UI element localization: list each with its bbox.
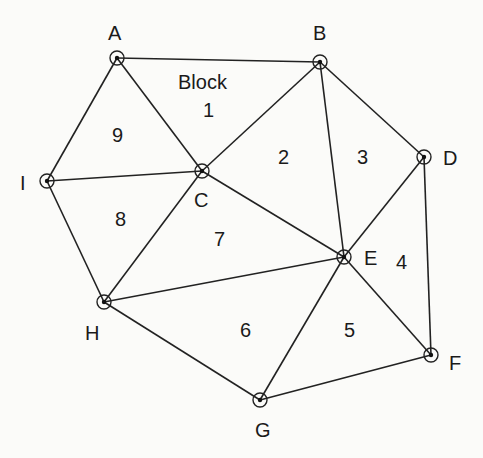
- edge-d-f: [424, 157, 431, 355]
- node-dot-icon: [422, 155, 426, 159]
- block-number-7: 7: [214, 228, 225, 250]
- node-label-f: F: [449, 352, 461, 374]
- block-network-diagram: Block ABCDEFGHI 123456789: [0, 0, 483, 458]
- node-dot-icon: [45, 179, 49, 183]
- edge-c-h: [104, 171, 202, 302]
- block-number-4: 4: [396, 251, 407, 273]
- edge-a-b: [117, 58, 320, 62]
- node-dot-icon: [342, 255, 346, 259]
- nodes-layer: [40, 51, 438, 407]
- edge-a-i: [47, 58, 117, 181]
- node-label-c: C: [194, 189, 208, 211]
- node-dot-icon: [115, 56, 119, 60]
- node-h: [97, 295, 111, 309]
- node-label-e: E: [364, 247, 377, 269]
- block-number-9: 9: [112, 124, 123, 146]
- block-number-1: 1: [203, 99, 214, 121]
- node-label-h: H: [85, 322, 99, 344]
- node-dot-icon: [102, 300, 106, 304]
- node-label-b: B: [313, 22, 326, 44]
- block-numbers-layer: 123456789: [112, 99, 407, 341]
- block-number-5: 5: [344, 319, 355, 341]
- edge-d-e: [344, 157, 424, 257]
- edge-b-e: [320, 62, 344, 257]
- node-label-d: D: [443, 147, 457, 169]
- node-label-a: A: [108, 22, 122, 44]
- node-dot-icon: [429, 353, 433, 357]
- block-title-label: Block: [178, 71, 228, 93]
- node-label-g: G: [255, 419, 271, 441]
- block-number-6: 6: [240, 319, 251, 341]
- node-dot-icon: [318, 60, 322, 64]
- edge-i-h: [47, 181, 104, 302]
- edge-e-f: [344, 257, 431, 355]
- edge-g-f: [260, 355, 431, 400]
- labels-layer: Block ABCDEFGHI: [20, 22, 461, 441]
- block-number-2: 2: [278, 146, 289, 168]
- node-label-i: I: [20, 172, 26, 194]
- edge-h-e: [104, 257, 344, 302]
- node-g: [253, 393, 267, 407]
- block-number-8: 8: [115, 208, 126, 230]
- edge-h-g: [104, 302, 260, 400]
- edge-i-c: [47, 171, 202, 181]
- edges-layer: [47, 58, 431, 400]
- node-dot-icon: [200, 169, 204, 173]
- edge-e-g: [260, 257, 344, 400]
- edge-b-d: [320, 62, 424, 157]
- block-number-3: 3: [357, 146, 368, 168]
- node-dot-icon: [258, 398, 262, 402]
